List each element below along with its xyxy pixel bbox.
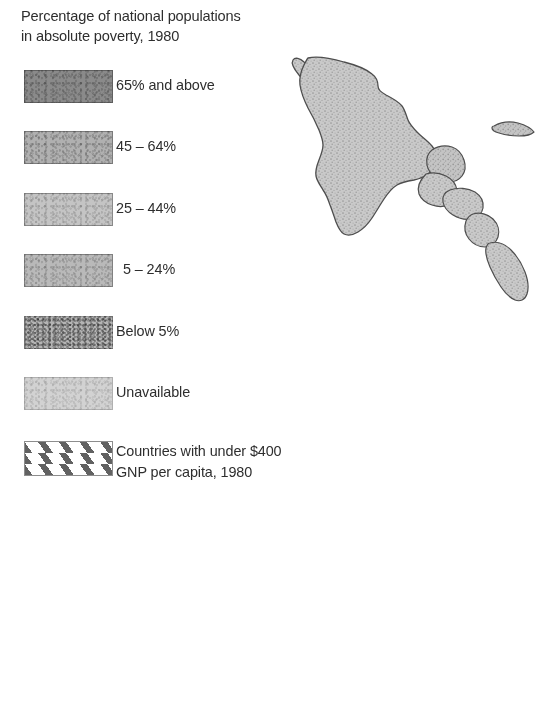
mexico-central-america-map [282,38,535,328]
poverty-map-page: Percentage of national populations in ab… [0,0,535,705]
legend-label-45-64: 45 – 64% [116,137,176,156]
swatch-border [24,377,113,410]
legend-item-65-and-above: 65% and above [0,70,330,103]
legend-swatch-below-5 [24,316,113,349]
legend-label-5-24: 5 – 24% [123,260,175,279]
legend-label-25-44: 25 – 44% [116,199,176,218]
legend: 65% and above 45 – 64% 25 – 44% 5 – 24 [0,0,330,505]
legend-swatch-5-24 [24,254,113,287]
legend-item-5-24: 5 – 24% [0,254,330,287]
costa-rica-panama-shape [486,242,528,300]
legend-item-25-44: 25 – 44% [0,193,330,226]
legend-swatch-65-and-above [24,70,113,103]
legend-label-65-and-above: 65% and above [116,76,215,95]
legend-swatch-25-44 [24,193,113,226]
legend-item-below-5: Below 5% [0,316,330,349]
swatch-border [24,254,113,287]
cuba-shape [492,122,534,136]
swatch-border [24,131,113,164]
swatch-border [24,70,113,103]
legend-swatch-unavailable [24,377,113,410]
legend-label-unavailable: Unavailable [116,383,190,402]
legend-swatch-45-64 [24,131,113,164]
legend-label-below-5: Below 5% [116,322,179,341]
legend-swatch-under-400-gnp [24,441,113,476]
swatch-border [24,316,113,349]
legend-item-under-400-gnp: Countries with under $400 GNP per capita… [0,441,330,481]
legend-item-45-64: 45 – 64% [0,131,330,164]
legend-label-under-400-gnp: Countries with under $400 GNP per capita… [116,441,282,483]
swatch-border [24,193,113,226]
mexico-mainland-shape [300,57,438,235]
legend-item-unavailable: Unavailable [0,377,330,410]
